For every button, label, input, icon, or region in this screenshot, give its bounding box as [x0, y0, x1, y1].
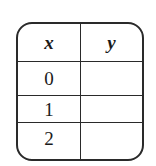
- cell-y[interactable]: [81, 96, 142, 122]
- table-row: 1: [18, 96, 142, 123]
- cell-y[interactable]: [81, 62, 142, 95]
- cell-y[interactable]: [81, 123, 142, 161]
- cell-x: 1: [18, 96, 81, 122]
- header-y: y: [81, 24, 142, 61]
- table-row: 2: [18, 123, 142, 161]
- cell-x: 2: [18, 123, 81, 161]
- xy-table: x y 0 1 2: [16, 22, 144, 161]
- table-header-row: x y: [18, 24, 142, 62]
- cell-x: 0: [18, 62, 81, 95]
- table-row: 0: [18, 62, 142, 96]
- header-x: x: [18, 24, 81, 61]
